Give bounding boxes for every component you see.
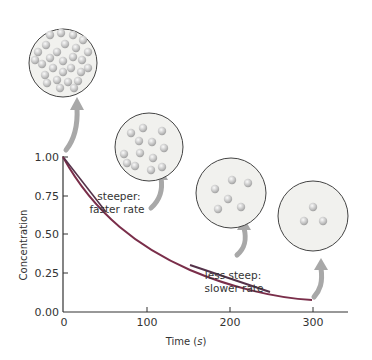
y-tick-0.00: 0.00 — [35, 306, 60, 319]
x-tick-200: 200 — [220, 316, 241, 329]
y-tick-0.25: 0.25 — [35, 267, 60, 280]
arrow-icon — [314, 268, 322, 297]
y-tick-0.75: 0.75 — [35, 190, 60, 203]
y-tick-0.50: 0.50 — [35, 228, 60, 241]
concentration-curve — [63, 157, 312, 300]
annotation-less-steep: less steep: — [205, 269, 261, 281]
concentration-time-chart: 1.00 0.75 0.50 0.25 0.00 0 100 200 300 C… — [0, 0, 372, 360]
inset-t0 — [29, 29, 97, 97]
inset-t200 — [196, 158, 266, 228]
annotation-slower-rate: slower rate — [205, 282, 264, 294]
inset-t300 — [278, 181, 348, 251]
inset-t100 — [115, 113, 183, 181]
arrow-icon — [237, 228, 245, 255]
x-tick-100: 100 — [137, 316, 158, 329]
x-tick-300: 300 — [303, 316, 324, 329]
y-tick-1.00: 1.00 — [35, 151, 60, 164]
annotation-steeper: steeper: — [97, 190, 140, 202]
arrow-icon — [151, 178, 162, 208]
x-axis-label: Time (s) — [165, 336, 207, 347]
x-tick-0: 0 — [61, 316, 68, 329]
annotation-faster-rate: faster rate — [89, 203, 144, 215]
arrow-icon — [66, 108, 77, 150]
y-axis-label: Concentration — [18, 210, 29, 281]
